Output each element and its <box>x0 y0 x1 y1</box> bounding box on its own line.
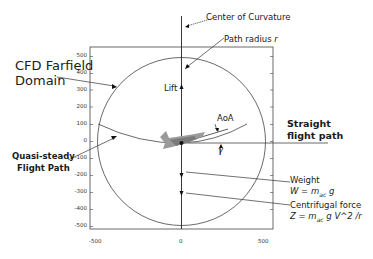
y-tick-label: 200 <box>63 104 87 110</box>
y-tick-label: -500 <box>63 223 87 229</box>
aircraft-icon <box>160 131 205 149</box>
y-tick-label: 100 <box>63 121 87 127</box>
y-tick-label: -300 <box>63 189 87 195</box>
quasi-steady-flight-path-label: Quasi-steady Flight Path <box>12 150 75 174</box>
centrifugal-force-label: Centrifugal force Z = mac g V^2 /r <box>290 200 362 225</box>
y-tick-label: 0 <box>63 138 87 144</box>
gamma-label: γ <box>218 146 223 155</box>
lift-arrow-icon <box>180 84 184 89</box>
center-of-curvature-label: Center of Curvature <box>206 13 291 22</box>
path-radius-label: Path radius r <box>224 35 278 44</box>
centrifugal-arrow-icon <box>180 191 184 196</box>
x-tick-label: 500 <box>258 239 269 245</box>
lift-label: Lift <box>164 84 177 93</box>
straight-flight-path-label: Straight flight path <box>287 118 343 142</box>
y-tick-label: -400 <box>63 206 87 212</box>
x-tick-label: 0 <box>179 239 183 245</box>
cfd-farfield-label: CFD Farfield Domain <box>15 58 93 88</box>
aoa-label: AoA <box>217 114 234 123</box>
centrifugal-equation: Z = mac g V^2 /r <box>290 211 362 225</box>
weight-label: Weight W = mac g <box>290 175 334 200</box>
weight-arrow-icon <box>180 173 184 178</box>
center-of-gravity-dot <box>180 141 184 145</box>
x-tick-label: -500 <box>89 239 101 245</box>
weight-equation: W = mac g <box>290 186 334 200</box>
